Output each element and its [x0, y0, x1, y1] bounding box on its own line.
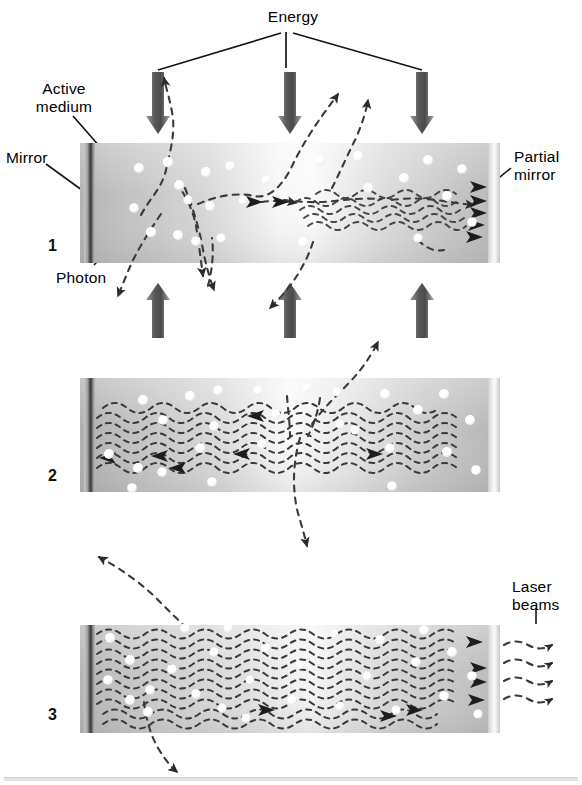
energy-arrows-down	[146, 72, 434, 134]
energy-arrow-up-2	[278, 283, 302, 338]
partial-mirror-right-3	[488, 625, 500, 733]
energy-arrow-up-1	[146, 283, 170, 338]
partial-mirror-right-1	[488, 143, 500, 263]
laser-diagram: Energy Active medium Mirror Partial mirr…	[0, 0, 582, 785]
laser-beam-1	[504, 642, 552, 649]
energy-arrow-down-3	[410, 72, 434, 134]
partial-mirror-right-2	[488, 378, 500, 492]
laser-beam-4	[504, 696, 552, 703]
energy-arrows-up	[146, 283, 434, 338]
laser-beam-2	[504, 660, 552, 667]
mirror-left-3	[84, 625, 95, 733]
panel-1	[80, 72, 500, 338]
energy-arrow-up-3	[410, 283, 434, 338]
diagram-canvas	[0, 0, 582, 785]
energy-arrow-down-2	[278, 72, 302, 134]
panel-2	[80, 342, 500, 546]
mirror-left-2	[84, 378, 95, 492]
panel-3	[80, 557, 552, 772]
laser-beams	[504, 642, 552, 703]
mirror-left-1	[84, 143, 95, 263]
laser-beam-3	[504, 678, 552, 685]
energy-leader-lines	[158, 32, 422, 70]
energy-arrow-down-1	[146, 72, 170, 134]
